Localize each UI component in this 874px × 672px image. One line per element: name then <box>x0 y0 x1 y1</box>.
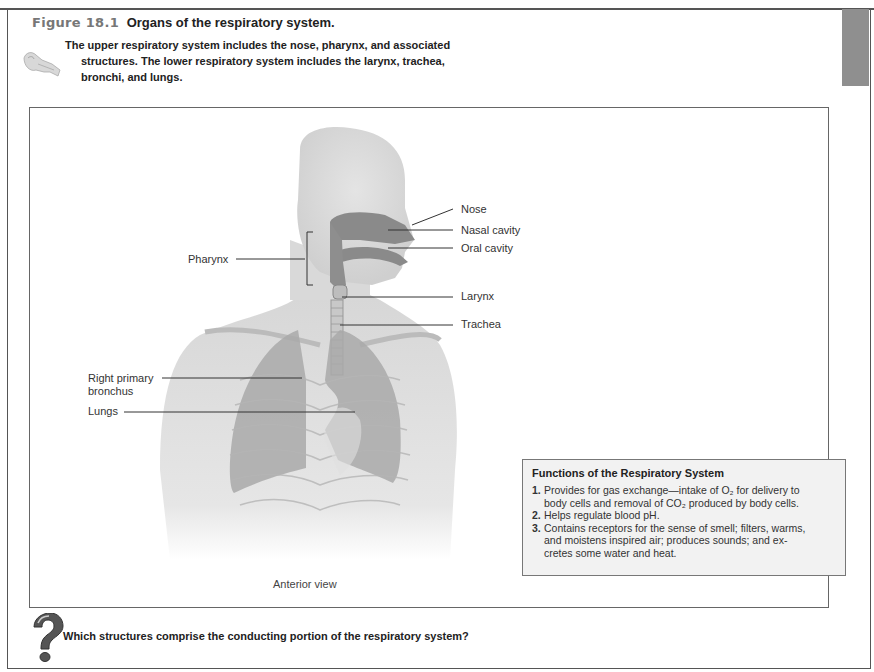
function-item: 2. Helps regulate blood pH. <box>532 509 836 522</box>
label-nose: Nose <box>461 203 487 215</box>
label-nasal-cavity: Nasal cavity <box>461 224 520 236</box>
function-item: 1. Provides for gas exchange—intake of O… <box>532 484 836 509</box>
item-number: 1. <box>532 484 541 497</box>
functions-list: 1. Provides for gas exchange—intake of O… <box>532 484 836 559</box>
item-text: Provides for gas exchange—intake of O₂ f… <box>544 484 800 496</box>
item-number: 2. <box>532 509 541 522</box>
item-text: body cells and removal of CO₂ produced b… <box>544 497 799 509</box>
item-number: 3. <box>532 522 541 535</box>
item-text: Contains receptors for the sense of smel… <box>544 522 805 534</box>
function-item: 3. Contains receptors for the sense of s… <box>532 522 836 560</box>
view-caption: Anterior view <box>273 578 337 590</box>
label-larynx: Larynx <box>461 290 494 302</box>
label-oral-cavity: Oral cavity <box>461 242 513 254</box>
label-trachea: Trachea <box>461 318 501 330</box>
review-question: Which structures comprise the conducting… <box>63 630 469 642</box>
label-pharynx: Pharynx <box>188 253 228 265</box>
item-text: Helps regulate blood pH. <box>544 509 660 521</box>
leader-nose <box>412 209 453 225</box>
item-text: cretes some water and heat. <box>544 547 677 559</box>
label-right-primary-bronchus: Right primary <box>88 372 153 384</box>
question-mark-icon <box>30 613 64 663</box>
functions-title: Functions of the Respiratory System <box>532 467 836 479</box>
label-right-primary-bronchus-cont: bronchus <box>88 385 133 397</box>
torso <box>160 285 457 560</box>
functions-box: Functions of the Respiratory System 1. P… <box>522 459 846 576</box>
item-text: and moistens inspired air; produces soun… <box>544 534 787 546</box>
label-lungs: Lungs <box>88 405 118 417</box>
